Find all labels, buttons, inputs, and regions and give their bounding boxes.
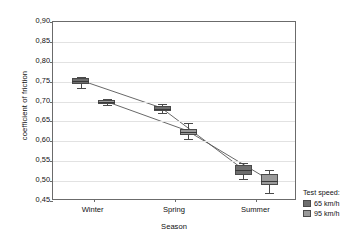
y-axis-tick-mark <box>50 201 53 202</box>
y-axis-tick-mark <box>50 161 53 162</box>
legend-swatch-icon <box>303 200 311 207</box>
gridline <box>53 121 295 122</box>
whisker-lower <box>269 185 270 193</box>
whisker-cap-upper <box>158 104 167 105</box>
y-axis-tick-mark <box>50 42 53 43</box>
median-line <box>180 132 197 133</box>
legend: Test speed: 65 km/h95 km/h <box>303 188 363 218</box>
y-axis-tick-mark <box>50 102 53 103</box>
y-axis-tick-label: 0,60 <box>20 136 50 143</box>
y-axis-tick-label: 0,45 <box>20 196 50 203</box>
median-line <box>261 181 278 182</box>
y-axis-tick-labels: 0,900,850,800,750,700,650,600,550,500,45 <box>18 0 50 239</box>
plot-area <box>52 21 296 200</box>
gridline <box>53 141 295 142</box>
x-axis-tick-label: Winter <box>63 205 123 214</box>
x-axis-tick-mark <box>94 199 95 202</box>
whisker-cap-lower <box>103 105 112 106</box>
y-axis-tick-label: 0,70 <box>20 97 50 104</box>
median-line <box>98 102 115 103</box>
y-axis-tick-mark <box>50 62 53 63</box>
gridline <box>53 161 295 162</box>
legend-title: Test speed: <box>303 188 363 197</box>
gridline <box>53 42 295 43</box>
y-axis-tick-mark <box>50 82 53 83</box>
whisker-cap-lower <box>77 88 86 89</box>
legend-item[interactable]: 65 km/h <box>303 199 363 208</box>
legend-item-label: 65 km/h <box>314 199 340 208</box>
gridline <box>53 181 295 182</box>
chart-figure: coefficient of friction 0,900,850,800,75… <box>0 0 363 239</box>
whisker-cap-lower <box>265 193 274 194</box>
whisker-cap-lower <box>184 139 193 140</box>
median-line <box>72 81 89 82</box>
gridline <box>53 82 295 83</box>
whisker-cap-upper <box>239 163 248 164</box>
whisker-cap-lower <box>158 113 167 114</box>
legend-entries: 65 km/h95 km/h <box>303 199 363 218</box>
y-axis-tick-mark <box>50 141 53 142</box>
y-axis-tick-label: 0,75 <box>20 77 50 84</box>
y-axis-tick-mark <box>50 121 53 122</box>
y-axis-tick-mark <box>50 181 53 182</box>
y-axis-tick-label: 0,50 <box>20 176 50 183</box>
whisker-cap-lower <box>239 179 248 180</box>
whisker-cap-upper <box>265 170 274 171</box>
y-axis-tick-label: 0,80 <box>20 57 50 64</box>
legend-swatch-icon <box>303 210 311 217</box>
x-axis-tick-label: Spring <box>144 205 204 214</box>
legend-item[interactable]: 95 km/h <box>303 209 363 218</box>
legend-item-label: 95 km/h <box>314 209 340 218</box>
whisker-cap-upper <box>184 123 193 124</box>
gridline <box>53 102 295 103</box>
x-axis-title: Season <box>52 222 296 231</box>
x-axis-tick-mark <box>256 199 257 202</box>
y-axis-tick-mark <box>50 22 53 23</box>
median-line <box>154 109 171 110</box>
series-connector-lines <box>53 22 295 199</box>
data-point-box <box>261 174 278 185</box>
y-axis-tick-label: 0,55 <box>20 156 50 163</box>
y-axis-tick-label: 0,85 <box>20 37 50 44</box>
x-axis-tick-mark <box>175 199 176 202</box>
gridline <box>53 62 295 63</box>
median-line <box>235 170 252 171</box>
series-line <box>80 80 241 168</box>
y-axis-tick-label: 0,90 <box>20 17 50 24</box>
x-axis-tick-label: Summer <box>225 205 285 214</box>
y-axis-tick-label: 0,65 <box>20 116 50 123</box>
